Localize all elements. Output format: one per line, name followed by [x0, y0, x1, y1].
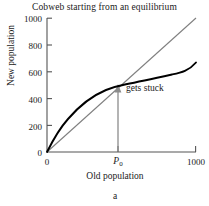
x-tick-label-0: 0 — [27, 157, 67, 167]
y-tick-label-400: 400 — [8, 95, 42, 105]
figure-cobweb-equilibrium: Cobweb starting from an equilibrium New … — [0, 0, 209, 206]
x-tick-label-p0: P0 — [98, 156, 138, 169]
x-axis-label: Old population — [30, 170, 200, 182]
reproduction-curve-series — [47, 63, 196, 153]
y-tick-label-1000: 1000 — [8, 14, 42, 24]
y-tick-label-200: 200 — [8, 122, 42, 132]
figure-caption: a — [30, 190, 200, 202]
annotation-gets-stuck: gets stuck — [126, 83, 164, 94]
y-tick-label-800: 800 — [8, 41, 42, 51]
chart-title: Cobweb starting from an equilibrium — [0, 1, 209, 13]
cobweb-vertical-arrow — [115, 84, 122, 151]
p0-subscript: 0 — [119, 160, 123, 168]
y-tick-label-600: 600 — [8, 68, 42, 78]
x-tick-label-1000: 1000 — [176, 157, 209, 167]
